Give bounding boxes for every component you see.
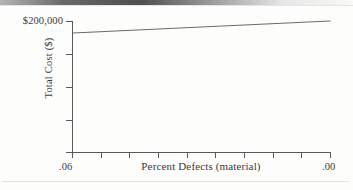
x-axis-tick-label-left: .06 <box>59 161 72 172</box>
plot-area: $200,000 Total Cost ($) .06 .00 Percent … <box>0 0 353 190</box>
scanned-figure: $200,000 Total Cost ($) .06 .00 Percent … <box>0 0 353 190</box>
x-axis-title: Percent Defects (material) <box>108 160 294 172</box>
series-line-total-cost <box>73 21 330 33</box>
y-axis-title: Total Cost ($) <box>0 20 96 116</box>
x-axis-tick-label-right: .00 <box>322 161 335 172</box>
